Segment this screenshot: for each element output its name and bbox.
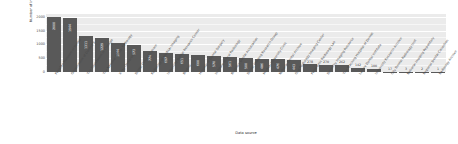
y-axis-tick-label: 2000 <box>36 15 45 19</box>
x-axis-tick-label: Oral Radiology Imaging Center <box>294 73 297 75</box>
x-axis-tick-label: Pakistan Museum of Dental <box>54 73 57 75</box>
bar-value-label: 651 <box>180 58 184 64</box>
x-axis-tick-labels: Pakistan Museum of DentalGovernment of D… <box>46 73 446 131</box>
x-axis-tick-label: Radiology Archive <box>438 73 441 75</box>
y-axis-tick-labels: 0500100015002000 <box>31 14 45 72</box>
bar-value-label: 570 <box>212 61 216 67</box>
bar-chart-figure: Number of images 0500100015002000 200019… <box>0 0 458 144</box>
bar-value-label: 561 <box>228 61 232 67</box>
x-axis-tick-label: Dental Imaging Research Group <box>246 73 249 75</box>
x-axis-tick-label: Lahore Dental Institute <box>358 73 361 75</box>
x-axis-tick-label: Brazilia <box>182 73 185 75</box>
bar-value-label: 2000 <box>52 22 56 30</box>
y-axis-tick-label: 1500 <box>36 29 45 33</box>
x-axis-title: Data source <box>46 131 446 136</box>
bar-value-label: 500 <box>244 62 248 68</box>
bar-value-label: 600 <box>196 60 200 66</box>
x-axis-tick-label: Medical University Clinic <box>262 73 265 75</box>
bar-value-label: 1944 <box>68 24 72 32</box>
x-axis-tick-label: Dentistry Imaging Resource <box>326 73 329 75</box>
y-axis-tick-label: 500 <box>39 56 45 60</box>
x-axis-tick-label: The Foundation of Chicago <box>86 73 89 75</box>
x-axis-tick-label: Hospital of Dental Surgery <box>198 73 201 75</box>
x-axis-tick-label: Dental Clinic of Lahore <box>134 73 137 75</box>
x-axis-tick-label: National Dental Archive <box>278 73 281 75</box>
x-axis-tick-label: University Dental Research Center <box>166 73 169 75</box>
x-axis-tick-label: The Teaching Hospital of Dental <box>342 73 345 75</box>
y-axis-tick-label: 0 <box>43 70 45 74</box>
x-axis-tick-label: Radiology of Medical Imaging <box>150 73 153 75</box>
x-axis-tick-label: The National Dental Radiology <box>102 73 105 75</box>
x-axis-tick-label: Brazilian Dental Association <box>230 73 233 75</box>
x-axis-tick-label: Government of Dentistry <box>70 73 73 75</box>
x-axis-tick-label: X-ray University <box>118 73 121 75</box>
y-axis-tick-label: 1000 <box>36 42 45 46</box>
bar-value-label: 270 <box>323 60 329 64</box>
bar-value-label: 476 <box>276 63 280 69</box>
x-axis-tick-label: Regional Dental Collection <box>422 73 425 75</box>
bar-value-label: 142 <box>355 63 361 67</box>
bar-value-label: 262 <box>339 60 345 64</box>
x-axis-tick-label: National Imaging Repository <box>406 73 409 75</box>
x-axis-tick-label: City Dental Radiology Unit <box>390 73 393 75</box>
bar-value-label: 486 <box>260 63 264 69</box>
x-axis-tick-label: University Research Archive <box>374 73 377 75</box>
x-axis-tick-label: Panoramic Radiology Lab <box>310 73 313 75</box>
x-axis-tick-label: Institute of Oral Radiology <box>214 73 217 75</box>
